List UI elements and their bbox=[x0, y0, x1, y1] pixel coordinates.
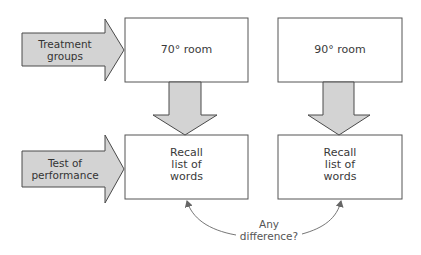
label-line: 90° room bbox=[278, 44, 402, 56]
label-line: words bbox=[125, 171, 248, 183]
label-line: Test of bbox=[22, 157, 108, 169]
label-line: performance bbox=[22, 169, 108, 181]
recall-right-label: Recall list of words bbox=[278, 147, 402, 183]
test-of-performance-label: Test of performance bbox=[22, 157, 108, 181]
down-arrow-left bbox=[153, 82, 217, 135]
label-line: Any bbox=[229, 218, 309, 230]
label-line: groups bbox=[22, 50, 108, 62]
experiment-diagram: Treatment groups Test of performance 70°… bbox=[0, 0, 421, 255]
label-line: Treatment bbox=[22, 38, 108, 50]
room-70-label: 70° room bbox=[125, 44, 248, 56]
label-line: 70° room bbox=[125, 44, 248, 56]
room-90-label: 90° room bbox=[278, 44, 402, 56]
label-line: words bbox=[278, 171, 402, 183]
recall-left-label: Recall list of words bbox=[125, 147, 248, 183]
label-line: difference? bbox=[229, 230, 309, 242]
treatment-groups-label: Treatment groups bbox=[22, 38, 108, 62]
any-difference-label: Any difference? bbox=[229, 218, 309, 242]
down-arrow-right bbox=[308, 82, 370, 135]
